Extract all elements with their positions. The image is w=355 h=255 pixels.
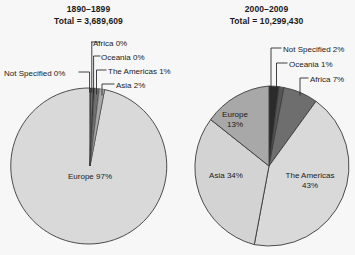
pie-chart-figure: 1890–1899 Total = 3,689,609 <box>0 0 355 255</box>
callout-label-not-specified-right: Not Specified 2% <box>283 45 344 54</box>
pie-right <box>0 0 355 255</box>
callout-label-oceania-right: Oceania 1% <box>289 60 333 69</box>
slice-label-europe-right-line1: Europe <box>222 110 248 119</box>
callout-label-africa-right: Africa 7% <box>310 75 344 84</box>
slice-label-americas-right-line1: The Americas <box>286 171 335 180</box>
slice-label-europe-right: Europe 13% <box>204 110 266 129</box>
slice-label-europe-right-line2: 13% <box>227 120 243 129</box>
slice-label-asia-right: Asia 34% <box>193 171 259 181</box>
leader-not-specified-right <box>271 48 281 90</box>
slice-label-americas-right-line2: 43% <box>302 181 318 190</box>
slice-label-americas-right: The Americas 43% <box>272 171 348 190</box>
